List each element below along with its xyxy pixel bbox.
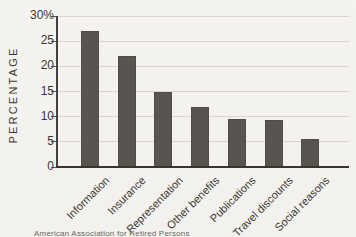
y-axis-line [56,16,58,167]
bar [228,119,246,167]
bar [118,56,136,167]
y-tick-label: 20 [41,59,54,73]
bar [154,92,172,168]
bar-chart: PERCENTAGE 30%2520151050InformationInsur… [0,0,356,237]
y-tick-label: 15 [41,84,54,98]
bar [191,107,209,167]
x-axis-line [56,166,349,168]
gridline [57,41,349,42]
gridline [57,66,349,67]
source-caption: American Association for Retired Persons [34,229,190,237]
gridline [57,16,349,17]
y-tick-label: 0 [47,159,54,173]
bar [301,139,319,167]
y-tick-label: 10 [41,109,54,123]
x-axis-label: Information [64,174,111,221]
gridline [57,91,349,92]
bar [265,120,283,167]
y-tick-label: 5 [47,134,54,148]
y-tick-label: 30% [30,8,54,22]
bar [81,31,99,167]
y-tick-label: 25 [41,33,54,47]
y-axis-title: PERCENTAGE [7,47,19,144]
